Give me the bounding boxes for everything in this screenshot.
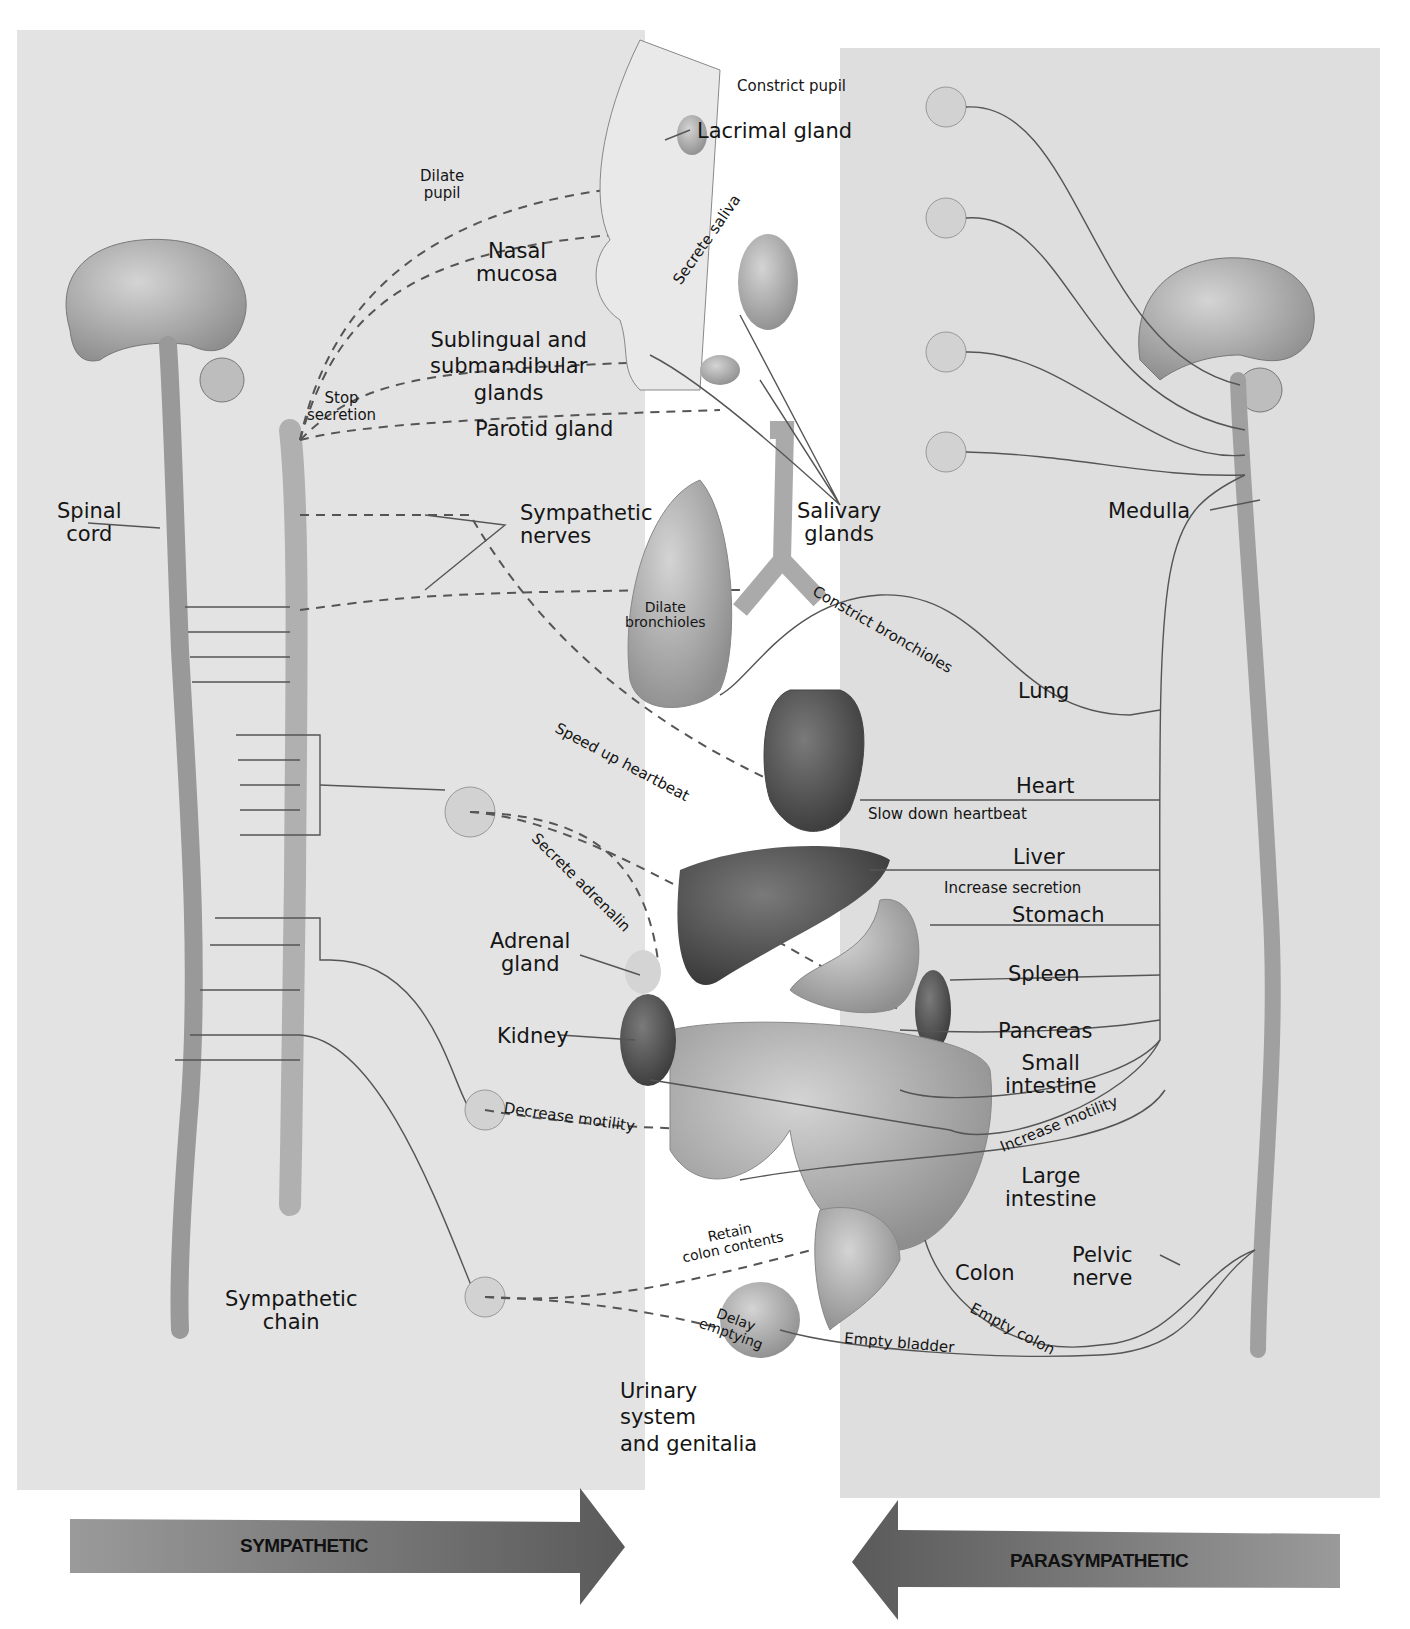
label-line: Urinary xyxy=(620,1378,757,1404)
label-line: glands xyxy=(430,380,587,406)
label-line: Pelvic xyxy=(1072,1244,1132,1267)
label-spleen: Spleen xyxy=(1008,963,1080,986)
label-parotid-gland: Parotid gland xyxy=(475,418,613,441)
label-urinary-system: Urinary system and genitalia xyxy=(620,1378,757,1457)
label-lacrimal-gland: Lacrimal gland xyxy=(697,120,852,143)
label-line: Nasal xyxy=(476,240,558,263)
label-line: Sympathetic xyxy=(520,502,653,525)
label-slow-down-heartbeat: Slow down heartbeat xyxy=(868,806,1027,823)
label-medulla: Medulla xyxy=(1108,500,1190,523)
label-line: chain xyxy=(225,1311,358,1334)
label-line: Sympathetic xyxy=(225,1288,358,1311)
label-line: intestine xyxy=(1005,1188,1097,1211)
face-outline xyxy=(596,40,720,390)
parotid-gland xyxy=(738,234,798,330)
label-line: submandibular xyxy=(430,353,587,379)
label-pancreas: Pancreas xyxy=(998,1020,1092,1043)
label-stop-secretion: Stop secretion xyxy=(307,390,376,423)
heart-icon xyxy=(764,690,864,831)
label-constrict-pupil: Constrict pupil xyxy=(737,78,846,95)
colon-icon xyxy=(815,1207,900,1330)
sympathetic-arrow-label: SYMPATHETIC xyxy=(240,1535,368,1557)
label-line: Stop xyxy=(307,390,376,407)
label-line: Sublingual and xyxy=(430,327,587,353)
label-line: Large xyxy=(1005,1165,1097,1188)
label-line: Dilate xyxy=(625,600,706,615)
label-spinal-cord: Spinal cord xyxy=(57,500,122,546)
label-kidney: Kidney xyxy=(497,1025,569,1048)
label-line: cord xyxy=(57,523,122,546)
label-nasal-mucosa: Nasal mucosa xyxy=(476,240,558,286)
label-line: intestine xyxy=(1005,1075,1097,1098)
label-dilate-pupil: Dilate pupil xyxy=(420,168,464,201)
label-heart: Heart xyxy=(1016,775,1074,798)
label-line: secretion xyxy=(307,407,376,424)
label-line: bronchioles xyxy=(625,615,706,630)
submandibular-gland xyxy=(700,355,740,385)
label-line: nerves xyxy=(520,525,653,548)
label-line: pupil xyxy=(420,185,464,202)
label-sublingual-glands: Sublingual and submandibular glands xyxy=(430,327,587,406)
label-colon: Colon xyxy=(955,1262,1015,1285)
left-spinal-cord xyxy=(168,345,194,1330)
label-line: gland xyxy=(490,953,570,976)
right-brain-icon xyxy=(1139,258,1315,412)
label-line: nerve xyxy=(1072,1267,1132,1290)
label-sympathetic-chain: Sympathetic chain xyxy=(225,1288,358,1334)
label-line: Salivary xyxy=(797,500,881,523)
label-line: Dilate xyxy=(420,168,464,185)
label-stomach: Stomach xyxy=(1012,904,1105,927)
label-line: Spinal xyxy=(57,500,122,523)
label-line: and genitalia xyxy=(620,1431,757,1457)
label-adrenal-gland: Adrenal gland xyxy=(490,930,570,976)
parasympathetic-arrow-label: PARASYMPATHETIC xyxy=(1010,1550,1188,1572)
label-liver: Liver xyxy=(1013,846,1065,869)
label-dilate-bronchioles: Dilate bronchioles xyxy=(625,600,706,631)
label-salivary-glands: Salivary glands xyxy=(797,500,881,546)
label-line: glands xyxy=(797,523,881,546)
right-spinal-cord xyxy=(1238,380,1273,1350)
label-line: system xyxy=(620,1404,757,1430)
label-large-intestine: Large intestine xyxy=(1005,1165,1097,1211)
label-small-intestine: Small intestine xyxy=(1005,1052,1097,1098)
label-line: mucosa xyxy=(476,263,558,286)
label-increase-secretion: Increase secretion xyxy=(944,880,1081,897)
label-line: Adrenal xyxy=(490,930,570,953)
label-lung: Lung xyxy=(1018,680,1069,703)
label-sympathetic-nerves: Sympathetic nerves xyxy=(520,502,653,548)
sympathetic-chain xyxy=(290,430,297,1205)
label-pelvic-nerve: Pelvic nerve xyxy=(1072,1244,1132,1290)
label-line: Small xyxy=(1005,1052,1097,1075)
left-brain-icon xyxy=(66,239,246,402)
